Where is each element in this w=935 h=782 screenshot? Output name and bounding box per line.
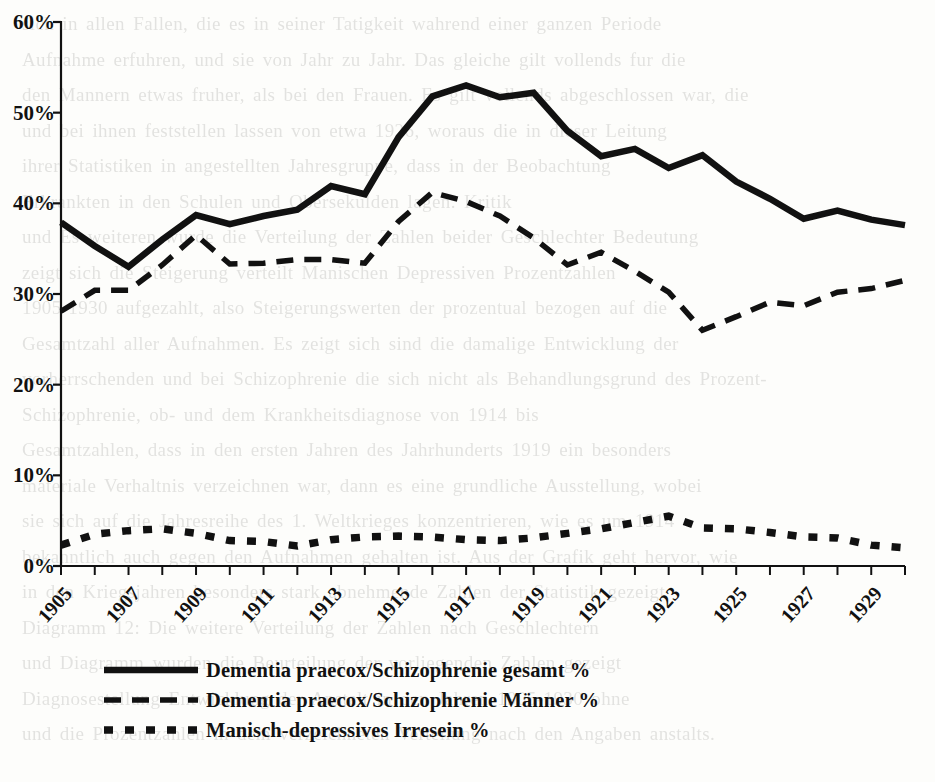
legend-swatch-dashed-icon [100, 690, 206, 710]
series-line-2 [61, 192, 905, 330]
legend-item: Manisch-depressives Irresein % [100, 715, 800, 745]
legend-item: Dementia praecox/Schizophrenie gesamt % [100, 655, 800, 685]
legend-item: Dementia praecox/Schizophrenie Männer % [100, 685, 800, 715]
chart-plot-area: 0%10%20%30%40%50%60% 1905190719091911191… [0, 0, 935, 600]
legend-swatch-solid-icon [100, 660, 206, 680]
y-tick-label: 60% [3, 10, 55, 35]
y-tick-label: 30% [3, 282, 55, 307]
y-tick-label: 10% [3, 463, 55, 488]
legend-label: Manisch-depressives Irresein % [206, 719, 490, 742]
y-tick-label: 50% [3, 101, 55, 126]
y-tick-label: 20% [3, 373, 55, 398]
y-tick-label: 40% [3, 191, 55, 216]
chart-axes [53, 21, 905, 575]
legend-label: Dementia praecox/Schizophrenie Männer % [206, 689, 599, 712]
legend-swatch-dotted-icon [100, 720, 206, 740]
chart-legend: Dementia praecox/Schizophrenie gesamt %D… [100, 655, 800, 745]
y-tick-label: 0% [3, 554, 55, 579]
y-axis-tick-labels: 0%10%20%30%40%50%60% [0, 0, 55, 600]
chart-svg [0, 0, 935, 600]
series-line-3 [61, 516, 905, 548]
legend-label: Dementia praecox/Schizophrenie gesamt % [206, 659, 590, 682]
